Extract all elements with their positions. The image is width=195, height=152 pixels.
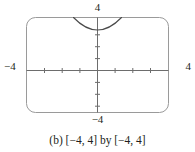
calculator-viewport — [0, 0, 195, 130]
figure-caption: (b) [−4, 4] by [−4, 4] — [0, 133, 195, 147]
axis-label-bottom: −4 — [0, 114, 195, 125]
graph-figure: 4 −4 −4 4 (b) [−4, 4] by [−4, 4] — [0, 0, 195, 152]
plot-area — [0, 0, 195, 130]
axis-label-left: −4 — [4, 61, 16, 72]
axis-label-top: 4 — [0, 2, 195, 13]
axis-label-right: 4 — [186, 61, 192, 72]
